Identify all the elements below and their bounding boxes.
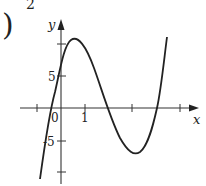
y-tick-label-5: 5 [48,70,56,84]
x-axis-label: x [193,112,201,127]
function-graph: y x 0 1 5 -5 [0,0,206,186]
y-axis-arrow-icon [58,19,65,30]
y-axis-label: y [47,17,56,32]
x-axis-arrow-icon [189,105,199,112]
x-tick-label-1: 1 [81,111,89,125]
origin-label: 0 [51,111,59,125]
